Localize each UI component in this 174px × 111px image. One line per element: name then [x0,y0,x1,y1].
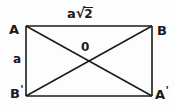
vertex-label-b-prime-base: B [10,86,20,101]
prime-mark-b: ' [20,83,23,96]
geometry-figure: A B B' A' 0 a a√2 [0,0,174,111]
vertex-label-a: A [9,23,19,36]
diagonal-length-label: a√2 [67,6,93,20]
prime-mark-a: ' [165,84,168,97]
square-root-expression: √2 [76,6,94,20]
center-point-label: 0 [81,41,89,53]
vertex-label-a-prime-base: A [155,87,165,102]
diagonal-coefficient: a [67,6,76,21]
side-length-label: a [13,53,21,65]
radicand-value: 2 [84,7,93,20]
vertex-label-b-prime: B' [10,87,23,100]
vertex-label-b: B [157,24,167,37]
vertex-label-a-prime: A' [155,88,169,101]
